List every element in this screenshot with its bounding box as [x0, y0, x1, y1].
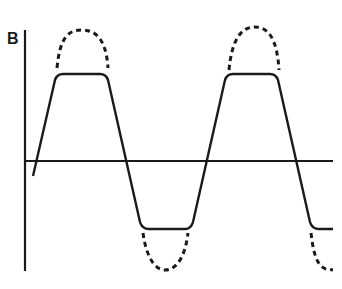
clipped-waveform-curve: [33, 74, 333, 229]
dashed-trough-2: [311, 233, 333, 270]
dashed-trough-1: [143, 233, 188, 270]
waveform-diagram: [0, 0, 342, 289]
dashed-peak-1: [57, 30, 108, 68]
dashed-peak-2: [229, 27, 279, 70]
